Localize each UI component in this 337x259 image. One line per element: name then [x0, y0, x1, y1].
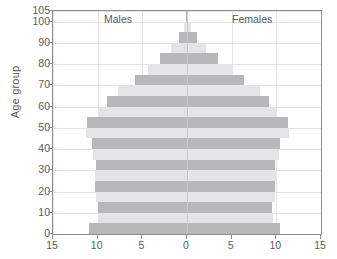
- y-axis-tick-label: 100: [24, 16, 50, 26]
- population-pyramid-chart: Age group 0102030405060708090100105 1510…: [0, 0, 337, 259]
- x-axis-tick-mark: [186, 235, 187, 239]
- y-axis-tick-label: 70: [24, 79, 50, 89]
- x-axis-tick-label: 5: [126, 239, 156, 251]
- y-axis-tick-label: 50: [24, 122, 50, 132]
- x-axis-tick-label: 10: [260, 239, 290, 251]
- bar-female: [187, 96, 269, 107]
- series-label-females: Females: [232, 13, 272, 25]
- x-axis-tick-mark: [320, 235, 321, 239]
- y-axis-tick-label: 10: [24, 207, 50, 217]
- bar-female: [187, 75, 244, 86]
- bar-female: [187, 107, 277, 118]
- bar-female: [187, 181, 275, 192]
- bar-male: [95, 170, 187, 181]
- x-axis-tick-mark: [275, 235, 276, 239]
- x-axis-tick-mark: [231, 235, 232, 239]
- bar-male: [98, 213, 187, 224]
- bar-male: [86, 128, 187, 139]
- bar-male: [96, 192, 187, 203]
- bar-male: [99, 107, 187, 118]
- bar-female: [187, 117, 288, 128]
- x-axis-tick-mark: [52, 235, 53, 239]
- bar-female: [187, 43, 206, 54]
- series-label-males: Males: [104, 13, 132, 25]
- bar-male: [98, 202, 187, 213]
- x-axis-tick-label: 15: [305, 239, 335, 251]
- y-axis-tick-label: 105: [24, 5, 50, 15]
- bar-male: [171, 43, 187, 54]
- bar-male: [92, 138, 187, 149]
- horizontal-gridline: [53, 234, 321, 235]
- bar-female: [187, 32, 197, 43]
- bar-female: [187, 160, 275, 171]
- bar-female: [187, 223, 280, 234]
- bar-male: [148, 64, 187, 75]
- bar-female: [187, 64, 232, 75]
- x-axis-tick-mark: [141, 235, 142, 239]
- x-axis-tick-label: 15: [37, 239, 67, 251]
- bar-male: [93, 149, 187, 160]
- x-axis-tick-label: 0: [171, 239, 201, 251]
- bar-female: [187, 202, 272, 213]
- bar-female: [187, 53, 218, 64]
- bar-male: [95, 181, 187, 192]
- bar-female: [187, 128, 289, 139]
- bar-female: [187, 192, 275, 203]
- x-axis-tick-label: 10: [82, 239, 112, 251]
- bar-female: [187, 170, 276, 181]
- bar-male: [179, 32, 187, 43]
- vertical-gridline: [53, 11, 54, 234]
- bar-male: [87, 117, 187, 128]
- y-axis-tick-label: 90: [24, 37, 50, 47]
- bar-male: [96, 160, 187, 171]
- y-axis-tick-label: 20: [24, 186, 50, 196]
- y-axis-tick-label: 0: [24, 228, 50, 238]
- bar-female: [187, 149, 279, 160]
- x-axis-tick-label: 5: [216, 239, 246, 251]
- bar-male: [107, 96, 187, 107]
- bar-male: [89, 223, 187, 234]
- center-axis-line: [187, 11, 188, 234]
- bar-female: [187, 138, 280, 149]
- bar-female: [187, 213, 273, 224]
- x-axis-tick-mark: [97, 235, 98, 239]
- plot-area: [52, 10, 322, 235]
- y-axis-title: Age group: [9, 47, 21, 137]
- bar-male: [135, 75, 187, 86]
- y-axis-tick-label: 80: [24, 58, 50, 68]
- bar-male: [160, 53, 187, 64]
- y-axis-tick-label: 30: [24, 164, 50, 174]
- vertical-gridline: [321, 11, 322, 234]
- y-axis-tick-label: 60: [24, 101, 50, 111]
- bar-male: [118, 85, 187, 96]
- y-axis-tick-label: 40: [24, 143, 50, 153]
- bar-female: [187, 85, 260, 96]
